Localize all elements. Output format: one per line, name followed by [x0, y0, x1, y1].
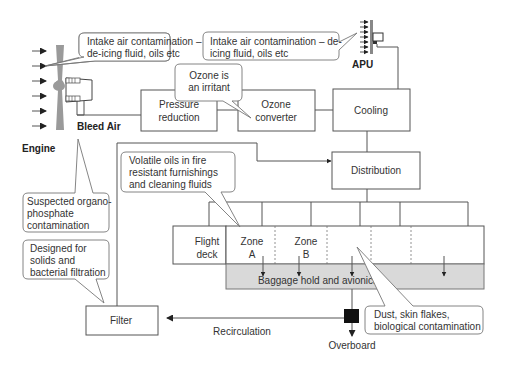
callout-volatile-oils: Volatile oils in fire resistant furnishi… — [121, 152, 240, 227]
baggage-hold-label: Baggage hold and avionics — [258, 275, 378, 286]
svg-text:Ozone is: Ozone is — [189, 70, 228, 81]
zone-b-label-2: B — [303, 249, 310, 260]
engine-label: Engine — [22, 143, 56, 154]
flight-deck-label-1: Flight — [195, 236, 220, 247]
svg-text:de-icing fluid, oils etc: de-icing fluid, oils etc — [87, 48, 180, 59]
svg-text:bacterial filtration: bacterial filtration — [30, 267, 106, 278]
zone-b-label-1: Zone — [295, 236, 318, 247]
svg-text:Intake air contamination – de-: Intake air contamination – de- — [210, 36, 342, 47]
apu-intake-arrows — [360, 22, 368, 52]
distribution-label: Distribution — [351, 165, 401, 176]
cooling-label: Cooling — [354, 105, 388, 116]
svg-text:biological contamination: biological contamination — [374, 321, 481, 332]
callout-engine-intake: Intake air contamination – de-icing flui… — [45, 33, 202, 66]
svg-text:Volatile oils in fire: Volatile oils in fire — [129, 155, 207, 166]
cabin-zones-box — [226, 226, 484, 264]
svg-text:and cleaning fluids: and cleaning fluids — [129, 179, 212, 190]
callout-apu-intake: Intake air contamination – de- icing flu… — [203, 32, 357, 60]
svg-text:icing fluid, oils etc: icing fluid, oils etc — [210, 48, 288, 59]
ozone-converter-label-2: converter — [255, 112, 297, 123]
apu-air-line — [377, 44, 398, 89]
engine-icon — [53, 45, 65, 130]
svg-text:Intake air contamination –: Intake air contamination – — [87, 36, 202, 47]
svg-text:solids and: solids and — [30, 255, 75, 266]
recirculation-label: Recirculation — [213, 326, 271, 337]
callout-filter-design: Designed for solids and bacterial filtra… — [23, 240, 109, 303]
flight-deck-label-2: deck — [196, 249, 218, 260]
apu-icon — [370, 20, 383, 54]
svg-text:resistant furnishings: resistant furnishings — [129, 167, 218, 178]
overboard-label: Overboard — [328, 340, 375, 351]
filter-label: Filter — [110, 315, 133, 326]
outflow-valve-icon — [344, 309, 359, 323]
svg-text:Dust, skin flakes,: Dust, skin flakes, — [374, 309, 450, 320]
apu-label: APU — [352, 59, 373, 70]
svg-text:Designed for: Designed for — [30, 243, 87, 254]
svg-text:Suspected organo-: Suspected organo- — [27, 196, 112, 207]
svg-text:an irritant: an irritant — [188, 82, 230, 93]
svg-text:contamination: contamination — [27, 220, 89, 231]
engine-intake-arrows — [32, 51, 46, 126]
bleed-air-nozzle-icon — [66, 78, 92, 102]
pressure-reduction-label-2: reduction — [158, 112, 199, 123]
ozone-converter-box — [238, 90, 315, 131]
zone-a-label-2: A — [249, 249, 256, 260]
bleed-air-label: Bleed Air — [77, 121, 121, 132]
ozone-converter-label-1: Ozone — [261, 99, 291, 110]
zone-a-label-1: Zone — [241, 236, 264, 247]
svg-text:phosphate: phosphate — [27, 208, 74, 219]
cabin-air-diagram: Bleed Air Engine APU Pressure reduction … — [0, 0, 505, 365]
